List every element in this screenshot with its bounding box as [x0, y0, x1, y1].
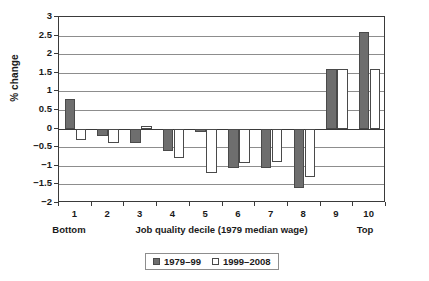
plot-area	[58, 16, 385, 202]
bar-series-1-decile-4	[174, 129, 185, 159]
gridline	[59, 36, 384, 37]
bar-series-0-decile-2	[97, 129, 108, 136]
x-tick-label-4: 4	[157, 208, 187, 220]
y-tick-label: 3	[24, 10, 52, 22]
y-tick-label: 0.5	[24, 103, 52, 115]
x-tick-mark	[58, 202, 59, 206]
x-tick-label-3: 3	[125, 208, 155, 220]
filled-square-icon	[153, 258, 160, 265]
x-tick-mark	[222, 202, 223, 206]
x-tick-label-7: 7	[256, 208, 286, 220]
bar-series-0-decile-9	[326, 69, 337, 129]
y-tick-label: 2	[24, 47, 52, 59]
x-axis-label-bottom: Bottom	[52, 224, 85, 236]
x-tick-label-1: 1	[59, 208, 89, 220]
x-tick-mark	[254, 202, 255, 206]
bar-series-0-decile-3	[130, 129, 141, 144]
x-tick-label-6: 6	[223, 208, 253, 220]
legend-label-series-1: 1999–2008	[223, 256, 271, 267]
x-tick-mark	[385, 202, 386, 206]
x-tick-label-2: 2	[92, 208, 122, 220]
bar-series-0-decile-7	[261, 129, 272, 168]
x-tick-mark	[91, 202, 92, 206]
x-tick-mark	[287, 202, 288, 206]
y-tick-label: 0	[24, 122, 52, 134]
chart-figure: % change 32.521.510.50−0.5−1−1.5−2 12345…	[0, 0, 429, 281]
y-axis-title: % change	[9, 33, 25, 123]
y-tick-label: −2	[24, 196, 52, 208]
open-square-icon	[212, 258, 219, 265]
legend-item-series-1: 1999–2008	[212, 256, 271, 267]
y-tick-label: −1	[24, 159, 52, 171]
x-tick-label-8: 8	[288, 208, 318, 220]
bar-series-1-decile-5	[206, 129, 217, 174]
chart-legend: 1979–99 1999–2008	[145, 253, 279, 270]
legend-item-series-0: 1979–99	[153, 256, 201, 267]
gridline	[59, 147, 384, 148]
x-tick-mark	[156, 202, 157, 206]
bar-series-1-decile-9	[337, 69, 348, 129]
x-tick-mark	[123, 202, 124, 206]
x-tick-mark	[352, 202, 353, 206]
x-tick-label-10: 10	[354, 208, 384, 220]
gridline	[59, 184, 384, 185]
legend-label-series-0: 1979–99	[164, 256, 201, 267]
y-tick-label: 1	[24, 84, 52, 96]
x-tick-mark	[320, 202, 321, 206]
gridline	[59, 54, 384, 55]
bar-series-0-decile-6	[228, 129, 239, 169]
y-tick-label: 1.5	[24, 66, 52, 78]
x-tick-mark	[189, 202, 190, 206]
bar-series-1-decile-6	[239, 129, 250, 163]
y-tick-label: −1.5	[24, 177, 52, 189]
bar-series-0-decile-5	[195, 129, 206, 133]
x-tick-label-9: 9	[321, 208, 351, 220]
x-axis-title: Job quality decile (1979 median wage)	[122, 224, 322, 236]
gridline	[59, 166, 384, 167]
bar-series-0-decile-1	[65, 99, 76, 129]
x-tick-label-5: 5	[190, 208, 220, 220]
bar-series-0-decile-4	[163, 129, 174, 151]
bar-series-0-decile-8	[294, 129, 305, 189]
bar-series-1-decile-10	[370, 69, 381, 129]
x-axis-label-top: Top	[357, 224, 374, 236]
bar-series-1-decile-8	[305, 129, 316, 177]
y-tick-label: 2.5	[24, 29, 52, 41]
bar-series-1-decile-7	[272, 129, 283, 162]
bar-series-1-decile-2	[108, 129, 119, 144]
y-tick-label: −0.5	[24, 140, 52, 152]
bar-series-0-decile-10	[359, 32, 370, 129]
bar-series-1-decile-1	[76, 129, 87, 140]
bar-series-1-decile-3	[141, 126, 152, 129]
